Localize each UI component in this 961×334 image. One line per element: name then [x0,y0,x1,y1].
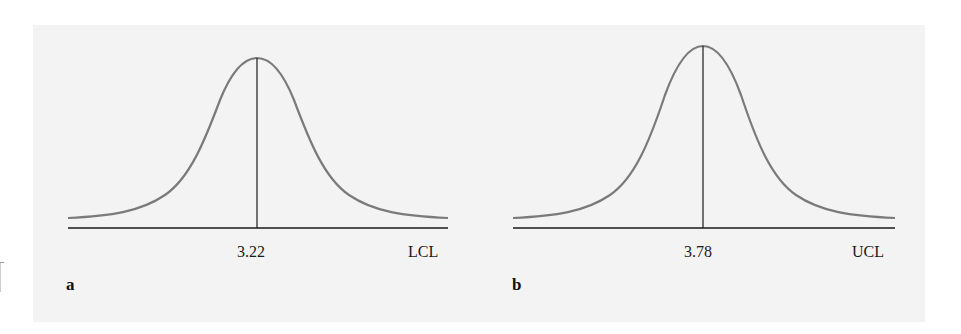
panel-a-limit-label: LCL [408,244,438,260]
panel-a-center-value: 3.22 [237,244,265,260]
panel-b-center-value: 3.78 [684,244,712,260]
panel-b-limit-label: UCL [852,244,884,260]
panel-a-diagram [68,58,448,228]
panel-a-bell-curve [68,58,448,218]
panel-b-letter: b [512,276,521,293]
panel-b-bell-curve [513,46,895,218]
control-limit-distribution-figure [0,0,961,334]
panel-a-letter: a [66,276,75,293]
panel-b-diagram [513,46,895,228]
